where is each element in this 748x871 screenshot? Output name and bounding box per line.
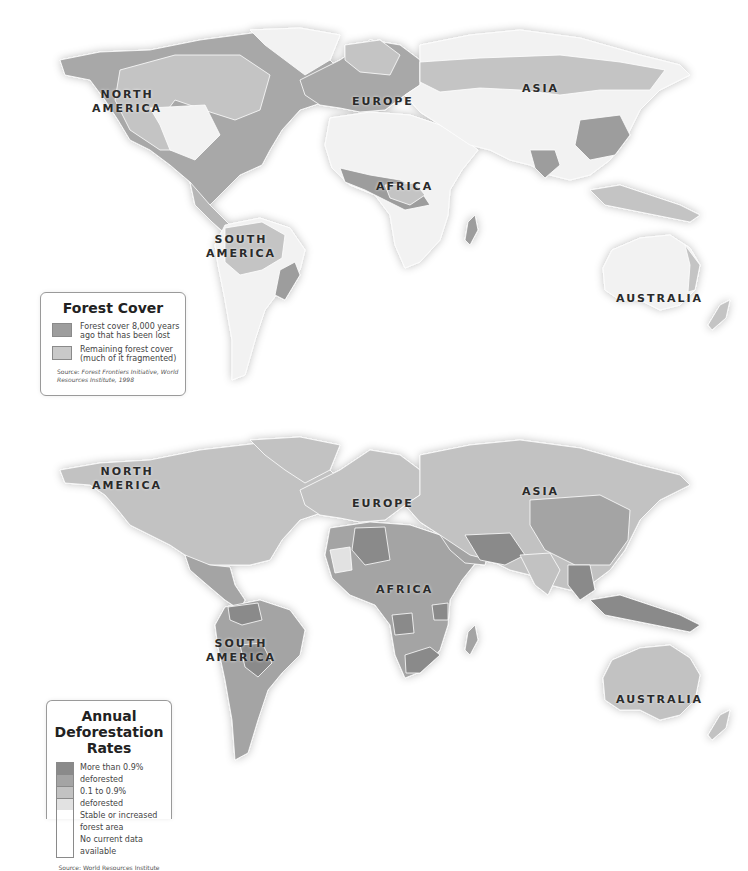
- legend-labels: More than 0.9% deforested 0.1 to 0.9% de…: [80, 762, 171, 858]
- legend-swatches: [56, 762, 74, 858]
- moderate-deforestation-swatch: [57, 775, 73, 787]
- indonesia-shape: [590, 595, 700, 632]
- legend-title: Forest Cover: [41, 300, 185, 316]
- label-europe: EUROPE: [352, 497, 414, 511]
- label-south-america: SOUTH AMERICA: [206, 233, 276, 261]
- madagascar-shape: [465, 215, 478, 245]
- label-asia: ASIA: [522, 82, 559, 96]
- legend-label: More than 0.9% deforested: [80, 762, 171, 786]
- legend-item-lost-forest: Forest cover 8,000 years ago that has be…: [52, 322, 185, 340]
- source-prefix: Source:: [57, 368, 80, 375]
- label-north-america: NORTH AMERICA: [92, 88, 162, 116]
- southeast-asia-shape: [590, 185, 700, 222]
- new-zealand-shape: [708, 710, 730, 740]
- label-africa: AFRICA: [376, 180, 433, 194]
- legend-source: Source: World Resources Institute: [47, 864, 171, 871]
- asia-lost-forest-china: [575, 115, 630, 160]
- remaining-forest-swatch: [52, 346, 72, 360]
- deforestation-rates-legend: Annual Deforestation Rates More than 0.9…: [46, 700, 172, 819]
- legend-source: Source: Forest Frontiers Initiative, Wor…: [57, 368, 185, 384]
- label-north-america: NORTH AMERICA: [92, 465, 162, 493]
- legend-label: Stable or increased forest area: [80, 810, 171, 834]
- legend-items: More than 0.9% deforested 0.1 to 0.9% de…: [56, 762, 171, 858]
- legend-label: Remaining forest cover (much of it fragm…: [80, 345, 185, 363]
- legend-label: No current data available: [80, 834, 171, 858]
- high-deforestation-swatch: [57, 763, 73, 775]
- tanzania-high-deforestation: [432, 603, 448, 620]
- source-prefix: Source:: [58, 864, 81, 871]
- label-africa: AFRICA: [376, 583, 433, 597]
- label-australia: AUSTRALIA: [616, 693, 703, 707]
- new-zealand-shape: [708, 300, 730, 330]
- legend-title: Annual Deforestation Rates: [47, 708, 171, 756]
- label-south-america: SOUTH AMERICA: [206, 637, 276, 665]
- forest-cover-map: NORTH AMERICA EUROPE ASIA AFRICA SOUTH A…: [0, 0, 748, 410]
- label-australia: AUSTRALIA: [616, 292, 703, 306]
- label-europe: EUROPE: [352, 95, 414, 109]
- southeast-asia-high-deforestation: [568, 565, 595, 600]
- legend-label: Forest cover 8,000 years ago that has be…: [80, 322, 185, 340]
- stable-forest-swatch: [57, 787, 73, 799]
- label-asia: ASIA: [522, 485, 559, 499]
- legend-label: 0.1 to 0.9% deforested: [80, 786, 171, 810]
- australia-shape: [603, 645, 700, 720]
- lost-forest-swatch: [52, 323, 72, 337]
- no-data-swatch: [57, 799, 73, 810]
- angola-high-deforestation: [392, 613, 414, 635]
- source-text: World Resources Institute: [83, 864, 160, 871]
- forest-cover-legend: Forest Cover Forest cover 8,000 years ag…: [40, 292, 186, 396]
- south-america-shape: [215, 600, 305, 760]
- madagascar-shape: [465, 625, 478, 655]
- legend-item-remaining-forest: Remaining forest cover (much of it fragm…: [52, 345, 185, 363]
